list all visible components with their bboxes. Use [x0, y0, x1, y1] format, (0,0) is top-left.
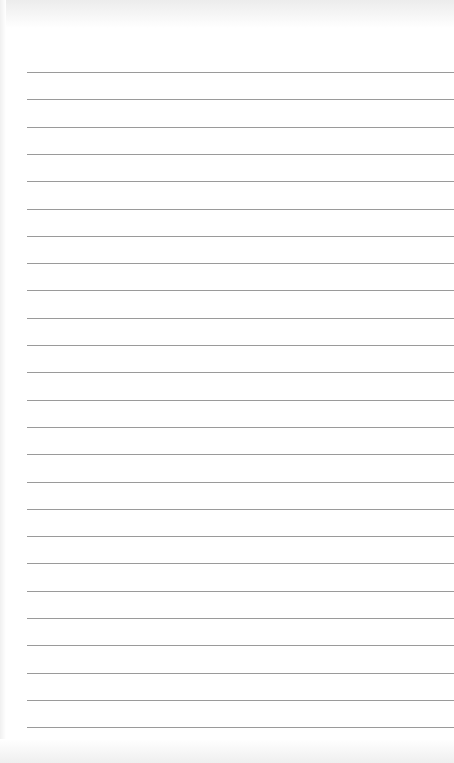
top-edge-shadow [0, 0, 454, 28]
ruled-line [27, 536, 454, 537]
ruled-line [27, 290, 454, 291]
ruled-line [27, 372, 454, 373]
ruled-line [27, 509, 454, 510]
ruled-line [27, 263, 454, 264]
ruled-line [27, 563, 454, 564]
ruled-line [27, 427, 454, 428]
ruled-line [27, 99, 454, 100]
ruled-line [27, 181, 454, 182]
ruled-line [27, 618, 454, 619]
ruled-line [27, 400, 454, 401]
ruled-line [27, 236, 454, 237]
bottom-edge-shadow [0, 739, 454, 763]
ruled-line [27, 127, 454, 128]
ruled-line [27, 345, 454, 346]
ruled-line [27, 482, 454, 483]
ruled-line [27, 209, 454, 210]
ruled-line [27, 318, 454, 319]
left-edge-shadow [0, 0, 6, 763]
ruled-line [27, 645, 454, 646]
ruled-line [27, 727, 454, 728]
ruled-line [27, 454, 454, 455]
ruled-line [27, 700, 454, 701]
ruled-line [27, 673, 454, 674]
ruled-line [27, 154, 454, 155]
ruled-line [27, 591, 454, 592]
ruled-line [27, 72, 454, 73]
